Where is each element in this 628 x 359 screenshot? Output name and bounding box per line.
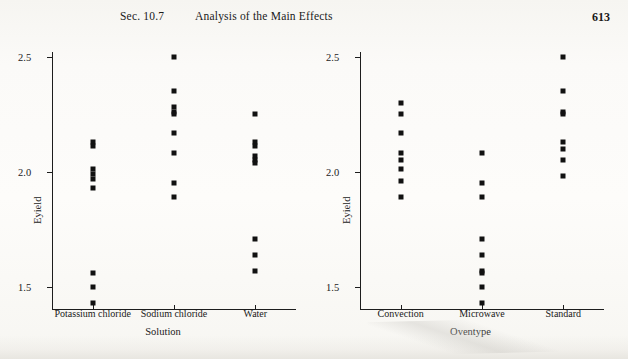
data-point	[480, 271, 485, 276]
data-point	[398, 158, 403, 163]
y-tick-label-2.5: 2.5	[326, 51, 352, 62]
y-tick-label-1.5: 1.5	[326, 281, 352, 292]
y-tick-2.0	[47, 172, 53, 173]
y-tick-label-2.0: 2.0	[18, 166, 44, 177]
data-point	[253, 160, 258, 165]
y-tick-2.5	[355, 57, 361, 58]
data-point	[398, 179, 403, 184]
data-point	[480, 195, 485, 200]
data-point	[90, 185, 95, 190]
data-point	[561, 54, 566, 59]
y-axis-line-right	[360, 52, 361, 310]
y-tick-2.5	[47, 57, 53, 58]
y-axis-line-left	[52, 52, 53, 310]
data-point	[90, 144, 95, 149]
data-point	[480, 252, 485, 257]
dotplot-solution: Eyield 1.52.02.5 Solution Potassium chlo…	[8, 44, 318, 344]
data-point	[398, 151, 403, 156]
plot-area-right: 1.52.02.5	[360, 52, 604, 310]
data-point	[253, 252, 258, 257]
x-axis-label-right: Oventype	[450, 326, 491, 337]
plot-area-left: 1.52.02.5	[52, 52, 296, 310]
data-point	[398, 167, 403, 172]
y-axis-label-left: Eyield	[32, 197, 43, 224]
data-point	[253, 144, 258, 149]
dotplot-oventype: Eyield 1.52.02.5 Oventype ConvectionMicr…	[318, 44, 623, 344]
data-point	[253, 268, 258, 273]
data-point	[398, 100, 403, 105]
data-point	[172, 130, 177, 135]
category-label-microwave: Microwave	[459, 308, 505, 319]
data-point	[561, 158, 566, 163]
data-point	[398, 195, 403, 200]
data-point	[561, 112, 566, 117]
data-point	[561, 139, 566, 144]
data-point	[253, 236, 258, 241]
data-point	[398, 130, 403, 135]
data-point	[172, 54, 177, 59]
data-point	[480, 181, 485, 186]
data-point	[398, 112, 403, 117]
section-title: Analysis of the Main Effects	[195, 10, 333, 22]
section-number: Sec. 10.7	[120, 10, 164, 22]
data-point	[561, 146, 566, 151]
y-tick-label-2.0: 2.0	[326, 166, 352, 177]
data-point	[561, 174, 566, 179]
category-label-convection: Convection	[378, 308, 424, 319]
y-axis-label-right: Eyield	[341, 197, 352, 224]
data-point	[172, 89, 177, 94]
category-label-potassium-chloride: Potassium chloride	[54, 308, 130, 319]
y-tick-label-1.5: 1.5	[18, 281, 44, 292]
category-label-water: Water	[244, 308, 268, 319]
data-point	[480, 151, 485, 156]
running-head: Sec. 10.7 Analysis of the Main Effects 6…	[0, 10, 628, 30]
data-point	[172, 112, 177, 117]
data-point	[172, 181, 177, 186]
data-point	[172, 195, 177, 200]
data-point	[480, 301, 485, 306]
category-label-sodium-chloride: Sodium chloride	[141, 308, 207, 319]
data-point	[90, 271, 95, 276]
y-tick-label-2.5: 2.5	[18, 51, 44, 62]
x-axis-label-left: Solution	[145, 326, 181, 337]
data-point	[172, 151, 177, 156]
data-point	[90, 301, 95, 306]
y-tick-2.0	[355, 172, 361, 173]
data-point	[90, 284, 95, 289]
y-tick-1.5	[47, 287, 53, 288]
data-point	[90, 176, 95, 181]
y-tick-1.5	[355, 287, 361, 288]
data-point	[253, 112, 258, 117]
data-point	[480, 284, 485, 289]
data-point	[480, 236, 485, 241]
page-number: 613	[592, 10, 610, 25]
data-point	[561, 89, 566, 94]
category-label-standard: Standard	[546, 308, 582, 319]
